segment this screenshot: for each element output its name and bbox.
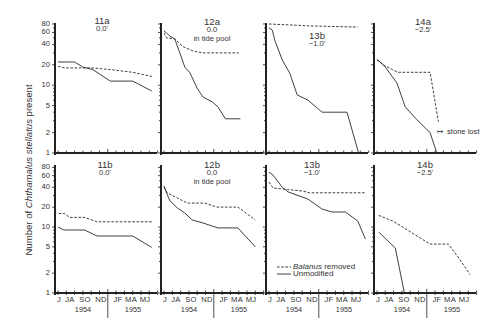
y-axis-label: Number of Chthamalus stellatus present (23, 84, 34, 256)
panel-11b-bottom: 1251020406080JJASONDJFMAMJ1954195511b0.0… (42, 159, 158, 318)
panel-note: in tide pool (194, 177, 231, 186)
month-label: MA (336, 295, 349, 304)
month-label: MJ (351, 295, 362, 304)
month-label: MJ (246, 295, 257, 304)
panel-elevation: −2.5' (417, 168, 434, 177)
panel-note: in tide pool (194, 34, 231, 43)
month-label: JA (171, 295, 181, 304)
month-label: ND (306, 295, 318, 304)
panel-13b-top: 13b−1.0' (263, 23, 369, 155)
series-line-balanus-removed (59, 214, 152, 222)
y-tick-label: 80 (42, 19, 50, 28)
y-axis-label-prefix: Number of (23, 208, 34, 255)
month-label: MA (231, 295, 244, 304)
legend-label: Unmodified (293, 269, 333, 278)
month-label: SO (290, 295, 302, 304)
panel-13b-bottom: JJASONDJFMAMJ1954195513b−1.0' (263, 159, 369, 318)
series-line-unmodified (164, 186, 255, 247)
month-label: J (268, 295, 272, 304)
y-tick-label: 60 (42, 171, 50, 180)
month-label: JF (432, 295, 441, 304)
month-label: J (376, 295, 380, 304)
series-line-balanus-removed (164, 187, 255, 220)
series-line-unmodified (379, 232, 405, 293)
year-label: 1955 (125, 305, 141, 314)
month-label: MJ (459, 295, 470, 304)
panel-elevation: −2.5' (415, 25, 432, 34)
y-tick-label: 1 (46, 148, 50, 157)
month-label: JF (219, 295, 228, 304)
panel-14b-bottom: JJASONDJFMAMJ1954195514b−2.5' (371, 159, 477, 318)
year-label: 1954 (75, 305, 91, 314)
month-label: JA (65, 295, 75, 304)
month-label: ND (95, 295, 107, 304)
series-line-unmodified (58, 62, 152, 91)
series-line-balanus-removed (269, 182, 365, 193)
panel-elevation: −1.0' (304, 168, 321, 177)
month-label: SO (398, 295, 410, 304)
series-line-unmodified (269, 172, 365, 239)
month-label: MA (125, 295, 138, 304)
month-label: JA (276, 295, 286, 304)
month-label: J (57, 295, 61, 304)
series-line-balanus-removed (58, 66, 152, 76)
y-tick-label: 60 (42, 27, 50, 36)
panel-elevation: −1.0' (309, 39, 326, 48)
y-tick-label: 2 (46, 128, 50, 137)
panel-12b-bottom: JJASONDJFMAMJ1954195512b0.0in tide pool (158, 159, 264, 318)
month-label: JF (324, 295, 333, 304)
month-label: SO (185, 295, 197, 304)
y-tick-label: 5 (46, 242, 50, 251)
panel-elevation: 0.0' (96, 24, 109, 33)
y-axis-label-suffix: present (23, 84, 34, 119)
series-line-unmodified (58, 227, 152, 247)
y-tick-label: 40 (42, 182, 50, 191)
panel-elevation: 0.0' (99, 168, 112, 177)
series-line-unmodified (377, 60, 437, 153)
month-label: ND (201, 295, 213, 304)
figure: Number of Chthamalus stellatus present 1… (0, 0, 499, 333)
y-tick-label: 20 (42, 60, 50, 69)
year-label: 1955 (231, 305, 247, 314)
y-tick-label: 10 (42, 80, 50, 89)
month-label: JF (113, 295, 122, 304)
legend: Balanus removedUnmodified (277, 262, 355, 278)
annotation-stone-lost: ↦stone lost (437, 127, 480, 136)
year-label: 1954 (181, 305, 197, 314)
y-tick-label: 1 (46, 288, 50, 297)
year-label: 1955 (336, 305, 352, 314)
month-label: MJ (140, 295, 151, 304)
y-axis-label-species: Chthamalus stellatus (23, 119, 34, 208)
month-label: MA (444, 295, 457, 304)
year-label: 1954 (394, 305, 410, 314)
chart-canvas: Number of Chthamalus stellatus present 1… (0, 0, 499, 333)
month-label: SO (79, 295, 91, 304)
month-label: JA (384, 295, 394, 304)
annotation-text: stone lost (447, 127, 480, 136)
month-label: ND (414, 295, 426, 304)
y-tick-label: 40 (42, 39, 50, 48)
y-tick-label: 80 (42, 162, 50, 171)
series-line-balanus-removed (269, 24, 358, 27)
year-label: 1955 (444, 305, 460, 314)
series-line-unmodified (164, 31, 240, 119)
y-tick-label: 10 (42, 222, 50, 231)
legend-label-text: Unmodified (293, 269, 333, 278)
y-tick-label: 20 (42, 202, 50, 211)
y-tick-label: 2 (46, 268, 50, 277)
y-tick-label: 5 (46, 101, 50, 110)
month-label: J (163, 295, 167, 304)
panel-11a-top: 125102040608011a0.0' (42, 15, 158, 157)
arrow-icon: ↦ (437, 127, 443, 136)
year-label: 1954 (286, 305, 302, 314)
panel-12a-top: 12a0.0in tide pool (158, 16, 264, 155)
